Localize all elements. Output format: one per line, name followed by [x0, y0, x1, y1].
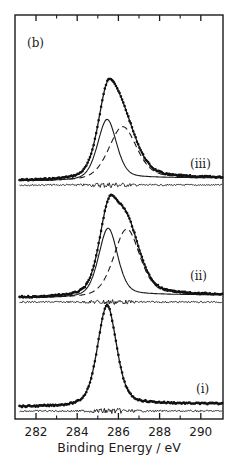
- solid-component-curve: [20, 228, 223, 297]
- spectrum-label: (ii): [190, 269, 207, 283]
- x-tick-label: 288: [148, 425, 171, 439]
- data-points: [20, 305, 223, 407]
- fit-envelope-curve: [20, 306, 223, 407]
- spectrum-label: (i): [196, 382, 209, 396]
- residual-curve: [20, 408, 223, 413]
- dashed-component-curve: [20, 127, 223, 181]
- spectra-group: (iii)(ii)(i): [20, 79, 223, 414]
- x-tick-label: 290: [189, 425, 212, 439]
- dashed-component-curve: [20, 229, 223, 298]
- x-axis-tick-labels: 282284286288290: [25, 425, 213, 439]
- panel-label: (b): [27, 36, 44, 50]
- x-tick-label: 282: [25, 425, 48, 439]
- x-axis-title: Binding Energy / eV: [57, 440, 181, 455]
- spectrum-ii: (ii): [20, 195, 223, 305]
- residual-curve: [20, 300, 223, 305]
- spectrum-i: (i): [20, 305, 223, 414]
- solid-component-curve: [20, 119, 223, 180]
- x-tick-label: 286: [107, 425, 130, 439]
- spectrum-label: (iii): [190, 157, 211, 171]
- x-tick-label: 284: [66, 425, 89, 439]
- spectrum-iii: (iii): [20, 79, 223, 188]
- residual-curve: [20, 183, 223, 188]
- xps-spectra-chart: 282284286288290 (b) (iii)(ii)(i) Binding…: [0, 0, 235, 466]
